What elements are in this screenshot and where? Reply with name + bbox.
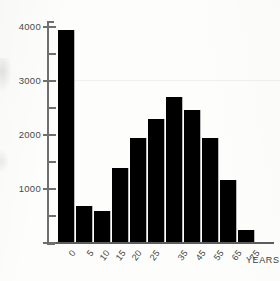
x-tick-label-4: 20	[130, 248, 144, 262]
chart-figure: 1000 2000 3000 4000 0 5	[0, 0, 280, 281]
x-tick-label-0: 0	[67, 248, 78, 258]
x-tick-label-7: 45	[194, 248, 208, 262]
plot-area: 1000 2000 3000 4000 0 5	[0, 0, 280, 281]
x-tick-label-5: 25	[148, 248, 162, 262]
x-tick-label-2: 10	[98, 248, 112, 262]
x-tick-label-1: 5	[85, 248, 96, 258]
x-axis-tick-labels: 0 5 10 15 20 25 35 45 55 65 75 YEARS	[0, 0, 280, 281]
x-axis-unit-label: YEARS	[246, 255, 280, 265]
x-tick-label-3: 15	[114, 248, 128, 262]
x-tick-label-8: 55	[212, 248, 226, 262]
x-tick-label-6: 35	[176, 248, 190, 262]
x-tick-label-9: 65	[230, 248, 244, 262]
